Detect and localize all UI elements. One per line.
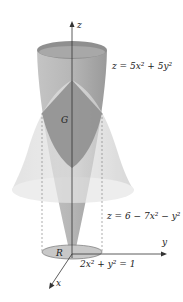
base-boundary-equation: 2x² + y² = 1 xyxy=(79,259,135,269)
z-axis-label: z xyxy=(76,20,82,30)
x-axis-label: x xyxy=(56,278,61,288)
y-axis-label: y xyxy=(161,237,168,247)
solid-label-g: G xyxy=(61,115,68,125)
lower-surface-equation: z = 6 − 7x² − y² xyxy=(106,211,181,221)
diagram-canvas: z y x z = 5x² + 5y² z = 6 − 7x² − y² 2x²… xyxy=(0,0,183,302)
upper-surface-equation: z = 5x² + 5y² xyxy=(111,61,172,71)
base-label-r: R xyxy=(55,248,63,258)
